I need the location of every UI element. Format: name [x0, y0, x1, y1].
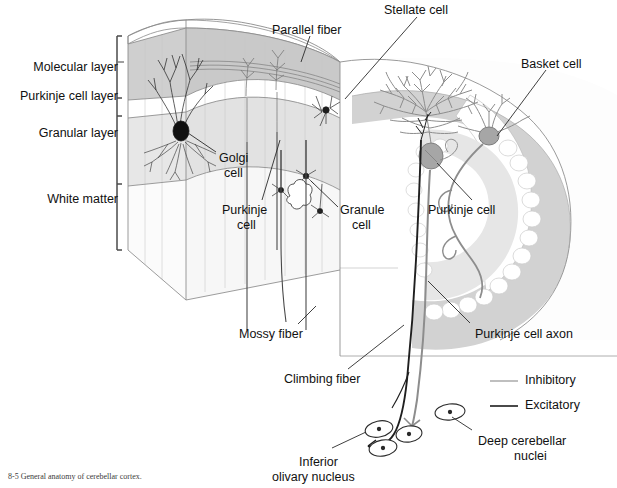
label-purkinje-cell-axon: Purkinje cell axon — [475, 327, 573, 342]
label-golgi-cell-line1: Golgi — [219, 151, 248, 166]
label-granular-layer: Granular layer — [0, 126, 118, 141]
label-deep-cerebellar-line2: nuclei — [514, 449, 547, 464]
label-golgi-cell-line2: cell — [224, 166, 243, 181]
label-inferior-olivary-line1: Inferior — [299, 455, 338, 470]
label-white-matter: White matter — [0, 192, 118, 207]
label-inferior-olivary-line2: olivary nucleus — [272, 470, 355, 485]
label-granule-cell-line2: cell — [352, 218, 371, 233]
figure-caption: 8-5 General anatomy of cerebellar cortex… — [8, 472, 142, 481]
legend-label-inhibitory: Inhibitory — [525, 373, 576, 388]
label-stellate-cell: Stellate cell — [384, 3, 448, 18]
legend-lines — [490, 381, 518, 406]
label-basket-cell: Basket cell — [521, 57, 581, 72]
label-granule-cell-line1: Granule — [340, 203, 384, 218]
label-purkinje-cell-left-line2: cell — [237, 218, 256, 233]
cerebellar-cortex-figure: Molecular layer Purkinje cell layer Gran… — [0, 0, 617, 488]
deep-cerebellar-nuclei — [434, 402, 466, 421]
label-purkinje-cell-left-line1: Purkinje — [222, 203, 267, 218]
label-purkinje-cell-layer: Purkinje cell layer — [0, 89, 118, 104]
label-molecular-layer: Molecular layer — [0, 60, 118, 75]
label-climbing-fiber: Climbing fiber — [284, 372, 360, 387]
label-deep-cerebellar-line1: Deep cerebellar — [478, 434, 566, 449]
legend-label-excitatory: Excitatory — [525, 398, 580, 413]
label-mossy-fiber: Mossy fiber — [239, 327, 303, 342]
label-purkinje-cell-main: Purkinje cell — [428, 203, 495, 218]
label-parallel-fiber: Parallel fiber — [272, 23, 341, 38]
